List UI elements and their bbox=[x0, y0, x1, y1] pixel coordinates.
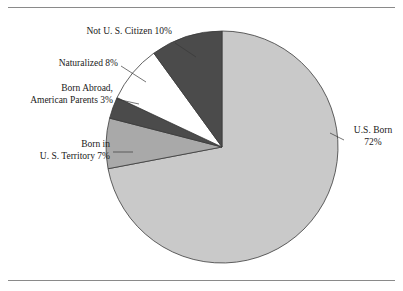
slice-label-us-territory-line2: U. S. Territory 7% bbox=[0, 151, 110, 163]
slice-label-us-territory-line1: Born in bbox=[0, 139, 110, 151]
slice-label-not-us-citizen-line1: Not U. S. Citizen 10% bbox=[0, 26, 172, 38]
slice-label-born-abroad: Born Abroad, American Parents 3% bbox=[0, 83, 113, 106]
slice-label-us-territory: Born in U. S. Territory 7% bbox=[0, 139, 110, 162]
slice-label-us-born: U.S. Born 72% bbox=[345, 125, 401, 148]
slice-label-born-abroad-line2: American Parents 3% bbox=[0, 95, 113, 107]
slice-label-us-born-line2: 72% bbox=[345, 137, 401, 149]
slice-label-born-abroad-line1: Born Abroad, bbox=[0, 83, 113, 95]
slice-label-naturalized-line1: Naturalized 8% bbox=[0, 58, 118, 70]
pie-slice-group bbox=[106, 31, 338, 263]
bottom-divider-rule bbox=[8, 280, 395, 281]
slice-label-naturalized: Naturalized 8% bbox=[0, 58, 118, 70]
slice-label-not-us-citizen: Not U. S. Citizen 10% bbox=[0, 26, 172, 38]
slice-label-us-born-line1: U.S. Born bbox=[345, 125, 401, 137]
pie-chart-figure: Not U. S. Citizen 10% Naturalized 8% Bor… bbox=[0, 0, 403, 291]
